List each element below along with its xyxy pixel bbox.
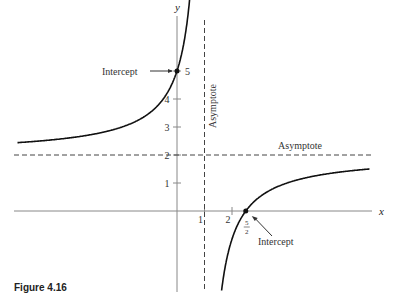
x-tick-label: 2 — [226, 214, 231, 225]
x-intercept-arrow — [254, 217, 272, 236]
chart-plot: xy123412AsymptoteAsymptote5Intercept52In… — [0, 0, 408, 302]
horizontal-asymptote-label: Asymptote — [278, 140, 322, 151]
x-axis-label: x — [378, 205, 384, 217]
figure: xy123412AsymptoteAsymptote5Intercept52In… — [0, 0, 408, 302]
y-tick-label: 3 — [165, 122, 170, 133]
x-intercept-point — [243, 209, 248, 214]
y-intercept-label: Intercept — [102, 66, 138, 77]
curve-right-branch — [222, 169, 370, 291]
x-intercept-value-den: 2 — [245, 228, 249, 236]
x-tick-label: 1 — [198, 214, 203, 225]
y-intercept-value: 5 — [185, 66, 190, 77]
y-axis-label: y — [174, 1, 180, 13]
y-tick-label: 1 — [165, 178, 170, 189]
vertical-asymptote-label: Asymptote — [207, 84, 218, 128]
figure-caption: Figure 4.16 — [14, 282, 67, 293]
y-intercept-point — [175, 69, 180, 74]
x-intercept-value-num: 5 — [245, 219, 249, 227]
y-intercept-arrowhead — [168, 69, 173, 73]
x-intercept-label: Intercept — [258, 236, 294, 247]
